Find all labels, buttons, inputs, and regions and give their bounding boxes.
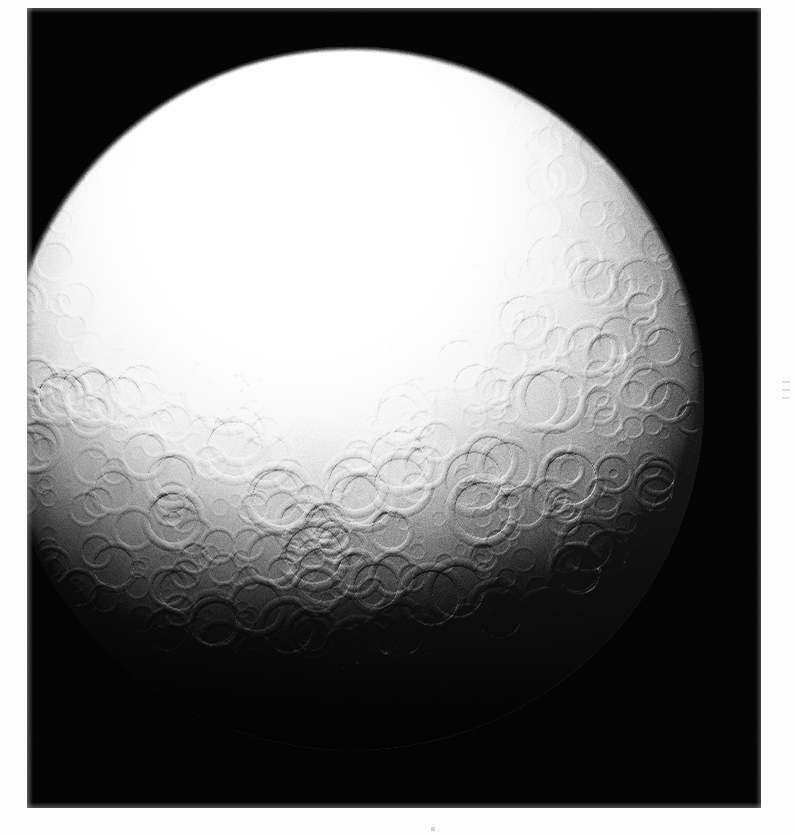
photo-page xyxy=(0,0,796,834)
margin-mark-right-tick-2 xyxy=(782,389,790,391)
paper-margin-layer xyxy=(0,0,796,834)
margin-mark-right-tick-1 xyxy=(782,381,790,383)
margin-mark-right-tick-3 xyxy=(782,397,789,399)
margin-mark-bottom-speck xyxy=(431,827,435,831)
